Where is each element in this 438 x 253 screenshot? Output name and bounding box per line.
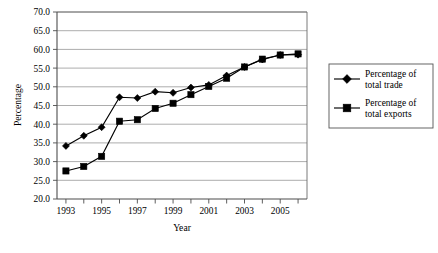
y-axis-ticks [53,12,57,199]
y-tick-label: 60.0 [34,45,51,55]
y-tick-label: 70.0 [34,7,51,17]
square-marker-icon [206,83,212,89]
x-tick-label: 1999 [164,206,183,216]
x-tick-label: 2001 [199,206,218,216]
x-axis-title: Year [173,222,191,233]
x-axis-ticks [66,199,298,204]
x-tick-label: 1993 [57,206,76,216]
square-marker-icon [277,52,283,58]
y-tick-label: 20.0 [34,194,51,204]
square-marker-icon [224,75,230,81]
square-marker-icon [116,118,122,124]
y-tick-label: 40.0 [34,120,51,130]
y-axis-tick-labels: 20.025.030.035.040.045.050.055.060.065.0… [34,7,51,204]
x-tick-label: 2003 [235,206,254,216]
square-marker-icon [343,104,351,112]
legend-label-total-exports-line1: Percentage of [365,98,417,108]
y-tick-label: 30.0 [34,157,51,167]
square-marker-icon [99,153,105,159]
square-marker-icon [152,105,158,111]
square-marker-icon [81,163,87,169]
chart-figure: 20.025.030.035.040.045.050.055.060.065.0… [0,0,438,253]
square-marker-icon [170,100,176,106]
y-tick-label: 50.0 [34,82,51,92]
legend-label-total-trade-line1: Percentage of [365,69,417,79]
y-axis-title: Percentage [12,84,23,126]
y-tick-label: 65.0 [34,26,51,36]
square-marker-icon [295,51,301,57]
x-tick-label: 1997 [128,206,147,216]
y-tick-label: 45.0 [34,101,51,111]
square-marker-icon [63,168,69,174]
x-tick-label: 1995 [92,206,111,216]
x-tick-label: 2005 [271,206,290,216]
square-marker-icon [188,92,194,98]
y-tick-label: 25.0 [34,176,51,186]
legend-label-total-trade-line2: total trade [365,80,403,90]
y-tick-label: 55.0 [34,64,51,74]
legend: Percentage of total trade Percentage of … [329,64,433,128]
x-axis-tick-labels: 1993199519971999200120032005 [57,206,290,216]
legend-label-total-exports-line2: total exports [365,109,412,119]
square-marker-icon [259,56,265,62]
square-marker-icon [134,117,140,123]
square-marker-icon [241,64,247,70]
line-chart: 20.025.030.035.040.045.050.055.060.065.0… [0,0,438,253]
y-tick-label: 35.0 [34,138,51,148]
